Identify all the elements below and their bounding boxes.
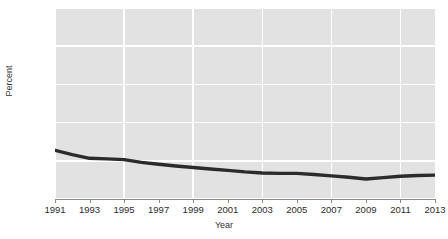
x-tick-mark-2003: [262, 199, 263, 203]
x-tick-mark-2001: [228, 199, 229, 203]
x-tick-mark-1995: [124, 199, 125, 203]
x-axis-title: Year: [0, 220, 448, 230]
x-tick-mark-2011: [400, 199, 401, 203]
x-tick-label-2013: 2013: [415, 204, 448, 215]
x-tick-mark-2007: [331, 199, 332, 203]
x-tick-mark-1997: [159, 199, 160, 203]
x-axis-line: [55, 199, 435, 200]
x-tick-mark-2013: [435, 199, 436, 203]
x-tick-mark-2009: [366, 199, 367, 203]
data-line-series: [55, 8, 435, 199]
line-chart: Percent 100 80 60 40 20 0 19911993199519…: [0, 0, 448, 239]
plot-area: [55, 8, 435, 199]
y-axis-title: Percent: [4, 41, 14, 121]
x-tick-mark-1993: [90, 199, 91, 203]
x-tick-mark-1991: [55, 199, 56, 203]
x-tick-mark-1999: [193, 199, 194, 203]
x-tick-mark-2005: [297, 199, 298, 203]
